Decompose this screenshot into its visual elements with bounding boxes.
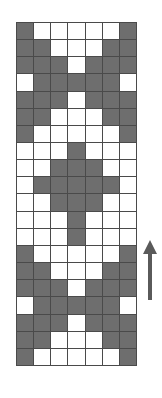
stitch-cell	[120, 212, 136, 228]
stitch-cell	[51, 212, 67, 228]
stitch-cell	[17, 57, 33, 73]
stitch-cell	[34, 40, 50, 56]
stitch-cell	[103, 177, 119, 193]
stitch-cell	[120, 229, 136, 245]
stitch-cell	[34, 263, 50, 279]
stitch-cell	[120, 126, 136, 142]
stitch-cell	[120, 332, 136, 348]
stitch-cell	[120, 246, 136, 262]
stitch-cell	[68, 23, 84, 39]
stitch-cell	[51, 74, 67, 90]
stitch-cell	[51, 263, 67, 279]
stitch-cell	[34, 74, 50, 90]
stitch-cell	[51, 92, 67, 108]
stitch-cell	[51, 23, 67, 39]
stitch-cell	[68, 263, 84, 279]
stitch-cell	[120, 74, 136, 90]
stitch-cell	[51, 229, 67, 245]
stitch-cell	[120, 194, 136, 210]
stitch-cell	[17, 143, 33, 159]
stitch-cell	[17, 23, 33, 39]
stitch-cell	[34, 92, 50, 108]
stitch-cell	[51, 160, 67, 176]
stitch-cell	[51, 297, 67, 313]
stitch-cell	[68, 349, 84, 365]
stitch-cell	[103, 315, 119, 331]
stitch-cell	[86, 315, 102, 331]
stitch-cell	[34, 349, 50, 365]
stitch-cell	[120, 263, 136, 279]
stitch-cell	[68, 177, 84, 193]
stitch-cell	[120, 315, 136, 331]
stitch-cell	[34, 297, 50, 313]
stitch-cell	[86, 263, 102, 279]
pattern-chart	[0, 0, 162, 398]
stitch-cell	[17, 332, 33, 348]
stitch-cell	[103, 246, 119, 262]
stitch-cell	[86, 246, 102, 262]
stitch-cell	[103, 109, 119, 125]
stitch-cell	[51, 177, 67, 193]
stitch-cell	[120, 109, 136, 125]
stitch-cell	[86, 40, 102, 56]
stitch-cell	[34, 109, 50, 125]
stitch-cell	[103, 74, 119, 90]
stitch-cell	[103, 126, 119, 142]
stitch-cell	[68, 297, 84, 313]
stitch-cell	[103, 92, 119, 108]
stitch-cell	[103, 349, 119, 365]
stitch-cell	[34, 143, 50, 159]
stitch-cell	[103, 40, 119, 56]
stitch-cell	[17, 349, 33, 365]
stitch-grid	[16, 22, 137, 366]
stitch-cell	[103, 23, 119, 39]
stitch-cell	[68, 315, 84, 331]
stitch-cell	[120, 349, 136, 365]
stitch-cell	[103, 57, 119, 73]
stitch-cell	[103, 212, 119, 228]
stitch-cell	[68, 109, 84, 125]
stitch-cell	[86, 160, 102, 176]
stitch-cell	[68, 194, 84, 210]
stitch-cell	[120, 143, 136, 159]
stitch-cell	[68, 40, 84, 56]
stitch-cell	[34, 212, 50, 228]
stitch-cell	[17, 40, 33, 56]
stitch-cell	[17, 92, 33, 108]
stitch-cell	[17, 109, 33, 125]
stitch-cell	[68, 57, 84, 73]
stitch-cell	[34, 57, 50, 73]
stitch-cell	[86, 57, 102, 73]
stitch-cell	[34, 246, 50, 262]
stitch-cell	[51, 280, 67, 296]
stitch-cell	[86, 126, 102, 142]
stitch-cell	[34, 194, 50, 210]
stitch-cell	[34, 315, 50, 331]
arrow-up-icon	[141, 240, 159, 300]
stitch-cell	[86, 229, 102, 245]
stitch-cell	[17, 280, 33, 296]
stitch-cell	[68, 160, 84, 176]
stitch-cell	[103, 160, 119, 176]
stitch-cell	[68, 74, 84, 90]
stitch-cell	[51, 194, 67, 210]
stitch-cell	[51, 40, 67, 56]
stitch-cell	[103, 263, 119, 279]
stitch-cell	[103, 194, 119, 210]
stitch-cell	[68, 332, 84, 348]
stitch-cell	[86, 23, 102, 39]
stitch-cell	[86, 74, 102, 90]
stitch-cell	[103, 280, 119, 296]
stitch-cell	[86, 109, 102, 125]
stitch-cell	[17, 246, 33, 262]
stitch-cell	[68, 280, 84, 296]
stitch-cell	[17, 160, 33, 176]
stitch-cell	[86, 349, 102, 365]
stitch-cell	[86, 280, 102, 296]
stitch-cell	[17, 126, 33, 142]
stitch-cell	[17, 263, 33, 279]
stitch-cell	[86, 143, 102, 159]
stitch-cell	[17, 229, 33, 245]
stitch-cell	[17, 74, 33, 90]
stitch-cell	[86, 212, 102, 228]
